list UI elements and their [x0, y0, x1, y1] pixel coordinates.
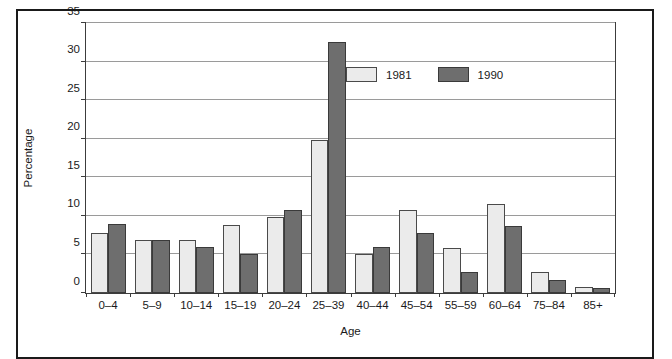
- legend-label-1981: 1981: [386, 69, 412, 81]
- bar-1990-55_59: [461, 272, 479, 293]
- bar-group: [351, 23, 395, 293]
- legend: 1981 1990: [346, 67, 503, 82]
- x-tick-mark: [218, 293, 219, 297]
- y-tick-label: 20: [67, 121, 80, 133]
- bar-group: [218, 23, 262, 293]
- y-tick-label: 10: [67, 199, 80, 211]
- x-tick-mark: [174, 293, 175, 297]
- x-tick-label: 60–64: [483, 299, 527, 311]
- bar-group: [86, 23, 130, 293]
- bar-1981-20_24: [267, 217, 285, 293]
- bar-1981-60_64: [487, 204, 505, 293]
- bar-1981-75_84: [531, 272, 549, 293]
- bar-1981-0_4: [91, 233, 109, 293]
- bar-chart: Percentage Age 05101520253035 0–45–910–1…: [16, 9, 654, 344]
- x-tick-mark: [130, 293, 131, 297]
- bar-group: [483, 23, 527, 293]
- x-tick-label: 15–19: [218, 299, 262, 311]
- x-tick-label: 10–14: [174, 299, 218, 311]
- x-tick-mark: [262, 293, 263, 297]
- bar-1990-40_44: [373, 247, 391, 293]
- y-tick-label: 0: [74, 276, 80, 288]
- x-tick-label: 85+: [571, 299, 615, 311]
- x-tick-label: 75–84: [527, 299, 571, 311]
- bar-group: [395, 23, 439, 293]
- x-tick-label: 40–44: [351, 299, 395, 311]
- bar-1981-15_19: [223, 225, 241, 293]
- plot-area: 05101520253035 0–45–910–1415–1920–2425–3…: [85, 22, 616, 294]
- x-tick-label: 0–4: [86, 299, 130, 311]
- bar-group: [130, 23, 174, 293]
- bar-1990-0_4: [108, 224, 126, 293]
- x-tick-mark: [527, 293, 528, 297]
- bar-1981-10_14: [179, 240, 197, 293]
- bar-group: [439, 23, 483, 293]
- x-tick-mark: [306, 293, 307, 297]
- y-tick-label: 25: [67, 83, 80, 95]
- bar-1990-75_84: [549, 280, 567, 293]
- bar-1990-45_54: [417, 233, 435, 293]
- x-tick-label: 20–24: [262, 299, 306, 311]
- bar-1990-60_64: [505, 226, 523, 293]
- bar-1990-10_14: [196, 247, 214, 293]
- bar-1990-20_24: [284, 210, 302, 293]
- x-tick-mark: [439, 293, 440, 297]
- x-tick-mark: [351, 293, 352, 297]
- legend-swatch-1981: [346, 67, 377, 82]
- bar-1981-85+: [575, 287, 593, 293]
- bar-1981-55_59: [443, 248, 461, 293]
- bar-1981-5_9: [135, 240, 153, 293]
- bar-group: [262, 23, 306, 293]
- x-axis-title: Age: [85, 325, 616, 337]
- x-tick-mark: [614, 293, 615, 297]
- y-tick-label: 35: [67, 6, 80, 18]
- x-tick-mark: [483, 293, 484, 297]
- x-tick-label: 25–39: [306, 299, 350, 311]
- legend-swatch-1990: [438, 67, 469, 82]
- y-axis-title: Percentage: [22, 129, 34, 188]
- bar-1981-25_39: [311, 140, 329, 293]
- bar-1990-5_9: [152, 240, 170, 293]
- legend-label-1990: 1990: [478, 69, 504, 81]
- x-tick-mark: [395, 293, 396, 297]
- bar-group: [571, 23, 615, 293]
- bar-group: [527, 23, 571, 293]
- bar-1990-85+: [593, 288, 611, 293]
- x-tick-mark: [86, 293, 87, 297]
- legend-item: 1990: [438, 67, 504, 82]
- bar-group: [306, 23, 350, 293]
- bar-1990-25_39: [328, 42, 346, 293]
- x-tick-label: 5–9: [130, 299, 174, 311]
- bar-1981-40_44: [355, 254, 373, 293]
- legend-item: 1981: [346, 67, 412, 82]
- bar-1981-45_54: [399, 210, 417, 293]
- bar-1990-15_19: [240, 254, 258, 293]
- x-tick-label: 55–59: [439, 299, 483, 311]
- x-tick-mark: [571, 293, 572, 297]
- y-tick-label: 30: [67, 44, 80, 56]
- y-tick-label: 5: [74, 237, 80, 249]
- y-tick-label: 15: [67, 160, 80, 172]
- bar-group: [174, 23, 218, 293]
- x-tick-label: 45–54: [395, 299, 439, 311]
